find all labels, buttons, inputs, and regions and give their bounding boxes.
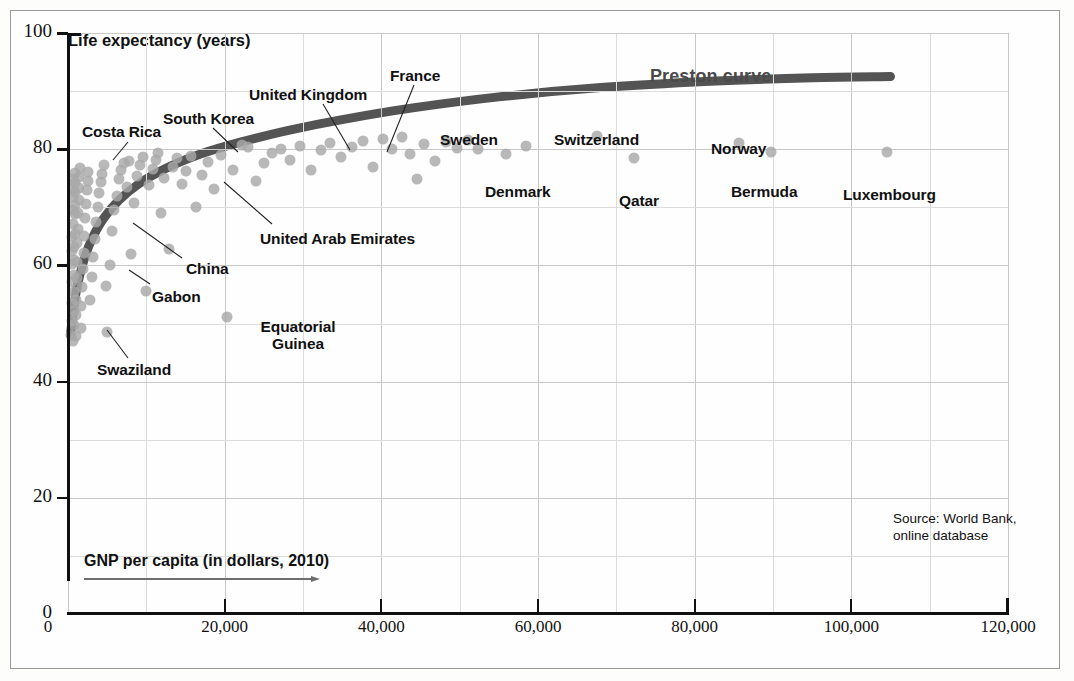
x-axis-right-cap [1006,598,1009,615]
point-label-united-arab-emirates: United Arab Emirates [260,230,415,247]
scatter-point [94,188,105,199]
y-axis-tick-label: 20 [0,485,52,507]
point-label-switzerland: Switzerland [554,131,639,148]
scatter-point [258,158,269,169]
scatter-point [377,134,388,145]
point-label-swaziland: Swaziland [97,361,171,378]
x-axis-tick-label: 100,000 [824,617,879,637]
y-axis-tick [57,264,68,267]
x-axis-tick-label: 0 [44,617,53,637]
point-label-qatar: Qatar [619,192,659,209]
x-axis-tick [850,599,852,613]
scatter-point [766,147,777,158]
scatter-point [203,156,214,167]
scatter-point [164,244,175,255]
chart-figure: Life expectancy (years) Preston curve GN… [0,0,1074,681]
x-axis-tick-label: 60,000 [515,617,562,637]
scatter-point [396,131,407,142]
scatter-point [215,150,226,161]
x-axis-tick-label: 40,000 [358,617,405,637]
source-line-2: online database [893,528,1017,545]
point-label-sweden: Sweden [440,131,498,148]
scatter-point [88,251,99,262]
y-axis-top-cap [67,33,81,36]
scatter-point [77,282,88,293]
scatter-point [335,152,346,163]
scatter-point [243,142,254,153]
scatter-point [316,145,327,156]
point-label-equatorial-guinea: Equatorial Guinea [252,318,344,353]
x-axis-tick-label: 20,000 [201,617,248,637]
point-label-luxembourg: Luxembourg [843,186,936,203]
scatter-point [185,150,196,161]
scatter-point [159,172,170,183]
scatter-point [102,327,113,338]
scatter-point [358,136,369,147]
point-label-norway: Norway [711,140,766,157]
scatter-point [138,152,149,163]
scatter-point [106,225,117,236]
x-axis-title-block: GNP per capita (in dollars, 2010) [84,552,329,588]
scatter-point [84,295,95,306]
point-label-costa-rica: Costa Rica [82,123,161,140]
source-note: Source: World Bank, online database [893,511,1017,545]
scatter-point [124,155,135,166]
gridline-horizontal [68,324,1008,325]
scatter-point [251,176,262,187]
gridline-horizontal [68,440,1008,441]
point-label-france: France [390,67,440,84]
scatter-point [100,280,111,291]
scatter-point [629,153,640,164]
scatter-point [387,144,398,155]
x-axis-title: GNP per capita (in dollars, 2010) [84,552,329,570]
scatter-point [419,138,430,149]
gridline-horizontal [68,382,1008,383]
scatter-point [294,140,305,151]
point-label-china: China [186,260,229,277]
scatter-point [83,166,94,177]
scatter-point [404,148,415,159]
scatter-point [75,323,86,334]
gridline-horizontal [68,207,1008,208]
y-axis-tick-label: 60 [0,252,52,274]
scatter-point [222,312,233,323]
scatter-point [153,148,164,159]
scatter-point [171,153,182,164]
scatter-point [81,198,92,209]
scatter-point [429,155,440,166]
y-axis-tick [57,148,68,151]
scatter-point [209,183,220,194]
source-line-1: Source: World Bank, [893,511,1017,528]
y-axis-tick-label: 80 [0,136,52,158]
scatter-point [131,170,142,181]
scatter-point [347,141,358,152]
point-label-united-kingdom: United Kingdom [249,86,367,103]
gridline-horizontal [68,33,1008,34]
scatter-point [81,185,92,196]
scatter-point [126,248,137,259]
scatter-point [156,208,167,219]
x-axis-tick [694,599,696,613]
x-axis-tick [380,599,382,613]
scatter-point [367,161,378,172]
scatter-point [325,138,336,149]
scatter-point [111,190,122,201]
scatter-point [109,205,120,216]
gridline-horizontal [68,149,1008,150]
x-axis-tick-label: 120,000 [980,617,1035,637]
scatter-point [285,155,296,166]
scatter-point [305,164,316,175]
scatter-point [86,272,97,283]
gridline-horizontal [68,498,1008,499]
scatter-point [276,144,287,155]
scatter-point [412,173,423,184]
y-axis-tick-label: 100 [0,20,52,42]
scatter-point [181,165,192,176]
point-label-south-korea: South Korea [163,110,254,127]
scatter-point [141,285,152,296]
y-axis-tick [57,497,68,500]
y-axis-tick [57,32,68,35]
x-axis-tick [224,599,226,613]
scatter-point [89,234,100,245]
scatter-point [196,170,207,181]
